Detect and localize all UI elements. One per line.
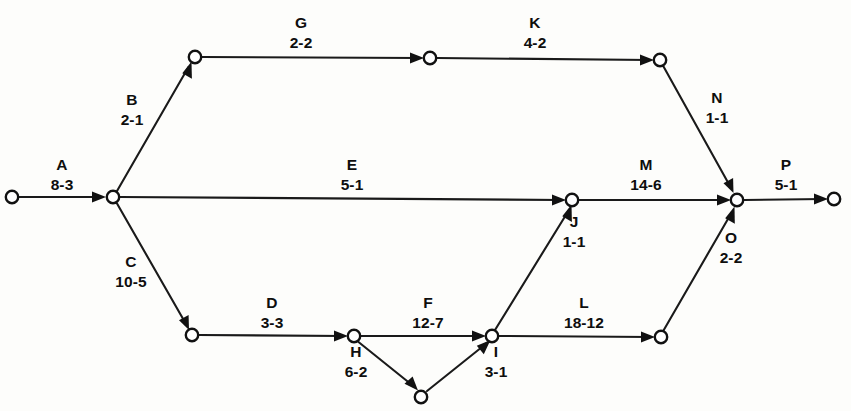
- node-n10[interactable]: [566, 194, 578, 206]
- edge-label-A: A 8-3: [51, 157, 74, 192]
- edge-label-P-name: P: [775, 157, 798, 173]
- network-graph-canvas: [0, 0, 851, 411]
- edge-J: [495, 205, 572, 331]
- edge-D: [199, 331, 348, 342]
- edge-label-E-name: E: [341, 157, 364, 173]
- edge-label-P-duration: 5-1: [775, 177, 798, 193]
- edge-label-J-name: J: [563, 214, 586, 230]
- edge-M: [579, 195, 731, 206]
- edge-label-G-name: G: [290, 15, 313, 31]
- edge-label-O-duration: 2-2: [720, 250, 743, 266]
- edge-label-D-duration: 3-3: [261, 315, 284, 331]
- edge-label-J-duration: 1-1: [563, 234, 586, 250]
- edge-label-A-name: A: [51, 157, 74, 173]
- edge-label-O-name: O: [720, 230, 743, 246]
- edge-label-E-duration: 5-1: [341, 177, 364, 193]
- edge-label-M-name: M: [630, 157, 661, 173]
- edge-label-D: D 3-3: [261, 295, 284, 330]
- edge-G: [202, 53, 424, 64]
- edge-label-O: O 2-2: [720, 230, 743, 265]
- edge-label-I-duration: 3-1: [485, 364, 508, 380]
- edge-label-M-duration: 14-6: [630, 177, 661, 193]
- edge-label-L-name: L: [564, 295, 604, 311]
- edge-label-N-name: N: [706, 90, 729, 106]
- edge-label-F: F 12-7: [412, 295, 443, 330]
- edge-label-H: H 6-2: [345, 344, 368, 379]
- edge-O: [664, 207, 735, 331]
- node-n1[interactable]: [6, 191, 18, 203]
- node-n4[interactable]: [424, 52, 436, 64]
- node-n13[interactable]: [828, 193, 840, 205]
- edge-E: [120, 195, 566, 206]
- edge-K: [437, 55, 654, 66]
- edge-label-K: K 4-2: [524, 15, 547, 50]
- edge-label-N: N 1-1: [706, 90, 729, 125]
- edge-label-F-name: F: [412, 295, 443, 311]
- edge-label-K-name: K: [524, 15, 547, 31]
- edge-N: [664, 67, 734, 194]
- edge-label-K-duration: 4-2: [524, 35, 547, 51]
- node-n6[interactable]: [186, 329, 198, 341]
- edge-label-G-duration: 2-2: [290, 35, 313, 51]
- edge-label-F-duration: 12-7: [412, 315, 443, 331]
- node-n8[interactable]: [415, 391, 427, 403]
- edge-label-L: L 18-12: [564, 295, 604, 330]
- edge-A: [19, 192, 106, 203]
- edge-label-B: B 2-1: [121, 92, 144, 127]
- node-n5[interactable]: [654, 54, 666, 66]
- node-n7[interactable]: [348, 330, 360, 342]
- edge-label-J: J 1-1: [563, 214, 586, 249]
- edge-label-L-duration: 18-12: [564, 315, 604, 331]
- node-n9[interactable]: [486, 330, 498, 342]
- edge-I: [427, 340, 491, 391]
- node-n11[interactable]: [655, 331, 667, 343]
- edge-label-M: M 14-6: [630, 157, 661, 192]
- node-n2[interactable]: [107, 191, 119, 203]
- edge-F: [361, 331, 486, 342]
- edge-label-G: G 2-2: [290, 15, 313, 50]
- edge-label-H-name: H: [345, 344, 368, 360]
- edge-label-P: P 5-1: [775, 157, 798, 192]
- edge-label-I: I 3-1: [485, 344, 508, 379]
- edge-label-E: E 5-1: [341, 157, 364, 192]
- node-n12[interactable]: [731, 194, 743, 206]
- edge-label-C: C 10-5: [115, 254, 146, 289]
- edge-label-B-duration: 2-1: [121, 112, 144, 128]
- edge-label-A-duration: 8-3: [51, 177, 74, 193]
- edge-label-B-name: B: [121, 92, 144, 108]
- edge-P: [744, 194, 828, 205]
- edge-label-N-duration: 1-1: [706, 110, 729, 126]
- edge-label-C-name: C: [115, 254, 146, 270]
- edge-label-H-duration: 6-2: [345, 364, 368, 380]
- network-diagram: A 8-3 B 2-1 G 2-2 K 4-2 N 1-1 E 5-1 M 14…: [0, 0, 851, 411]
- edge-L: [499, 332, 655, 343]
- edge-label-C-duration: 10-5: [115, 274, 146, 290]
- edge-label-D-name: D: [261, 295, 284, 311]
- node-n3[interactable]: [189, 51, 201, 63]
- edge-H: [359, 342, 419, 391]
- edge-label-I-name: I: [485, 344, 508, 360]
